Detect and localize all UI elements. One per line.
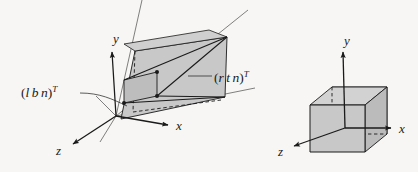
frustum-y-axis — [112, 52, 116, 116]
vertex-rbn-dot — [155, 94, 159, 98]
cube-z-axis-label: z — [278, 145, 283, 158]
frustum-x-axis — [116, 116, 168, 125]
label-lbn-vector: (lbn)T — [21, 86, 57, 100]
frustum-ray-aux-left — [96, 96, 116, 116]
cube-x-axis-label: x — [399, 122, 405, 135]
lbn-component-b: b — [32, 85, 39, 100]
canonical-cube-group — [294, 52, 391, 152]
rtn-component-t: t — [226, 70, 230, 85]
cube-y-axis-label: y — [344, 34, 350, 47]
frustum-z-axis — [73, 116, 116, 144]
lbn-component-l: l — [26, 85, 30, 100]
rtn-transpose-superscript: T — [244, 69, 249, 79]
frustum-ray-bottom-left — [100, 116, 116, 142]
lbn-transpose-superscript: T — [52, 84, 57, 94]
label-rtn-vector: (rtn)T — [214, 71, 249, 85]
figure-vector-graphic — [0, 0, 418, 172]
lbn-component-n: n — [41, 85, 48, 100]
vertex-rtn-dot — [155, 70, 159, 74]
frustum-x-axis-label: x — [176, 119, 182, 132]
frustum-y-axis-label: y — [113, 32, 119, 45]
rtn-component-r: r — [219, 70, 224, 85]
frustum-z-axis-label: z — [56, 144, 61, 157]
figure-container: x y z x y z (lbn)T (rtn)T — [0, 0, 418, 172]
